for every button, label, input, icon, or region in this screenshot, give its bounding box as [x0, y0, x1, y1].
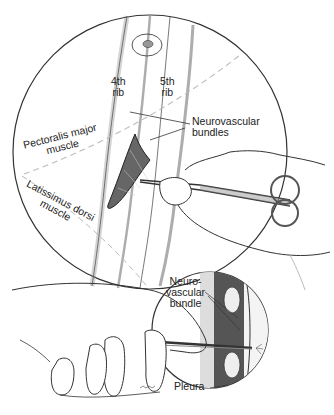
label-4th-rib-line2: rib [111, 87, 126, 98]
bottom-inset-view [12, 270, 274, 400]
label-neurovascular-bundle: Neuro- vascular bundle [166, 276, 205, 309]
label-nv-bundle-line3: bundle [166, 298, 205, 309]
label-4th-rib: 4th rib [111, 76, 126, 98]
label-nv-bundles-line2: bundles [192, 127, 260, 138]
label-5th-rib-line2: rib [160, 87, 175, 98]
label-5th-rib: 5th rib [160, 76, 175, 98]
label-pleura: Pleura [174, 381, 204, 392]
label-neurovascular-bundles: Neurovascular bundles [192, 116, 260, 138]
